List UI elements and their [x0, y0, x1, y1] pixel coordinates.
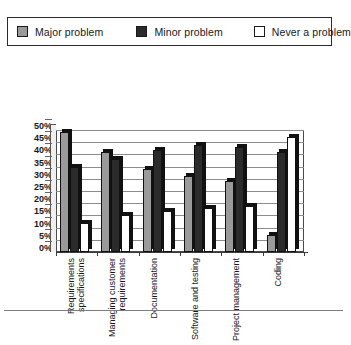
bar-front-face [143, 169, 152, 252]
bar [60, 132, 69, 252]
bar-side-face [296, 134, 299, 249]
y-axis-rung [45, 241, 52, 242]
bar-group [56, 130, 97, 252]
legend-swatch-major-problem [17, 26, 28, 37]
bar [101, 152, 110, 252]
x-axis-category-label: Project management [231, 258, 241, 345]
bar-front-face [70, 167, 79, 252]
bar-front-face [194, 145, 203, 252]
bar-group [180, 130, 221, 252]
bar-group [139, 130, 180, 252]
x-axis-tick [304, 252, 305, 256]
legend-label-never-a-problem: Never a problem [272, 26, 351, 38]
y-axis-rung [45, 119, 52, 120]
bar-front-face [60, 132, 69, 252]
chart-legend: Major problem Minor problem Never a prob… [7, 17, 332, 46]
legend-item-minor-problem: Minor problem [136, 18, 222, 45]
bar-side-face [89, 220, 92, 249]
bar-front-face [184, 176, 193, 252]
bar-front-face [245, 206, 254, 252]
x-axis-tick [263, 252, 264, 256]
bar [121, 215, 130, 252]
bar-group [97, 130, 138, 252]
bar [153, 150, 162, 252]
bar [194, 145, 203, 252]
x-axis-tick [180, 252, 181, 256]
legend-label-minor-problem: Minor problem [154, 26, 222, 38]
x-axis-line [56, 252, 308, 253]
bars-layer [56, 130, 304, 252]
y-axis-rung [45, 192, 52, 193]
category-label-line: Requirements [66, 258, 76, 314]
category-label-line: Project management [231, 258, 241, 341]
bar-front-face [204, 208, 213, 252]
bar-front-face [80, 223, 89, 252]
x-axis-category-label: Managing customerrequirements [107, 258, 127, 345]
bar [225, 181, 234, 252]
bar [80, 223, 89, 252]
bar [70, 167, 79, 252]
y-axis-rung [45, 143, 52, 144]
y-axis-rung [45, 217, 52, 218]
category-label-line: requirements [117, 258, 127, 345]
bar-front-face [153, 150, 162, 252]
legend-label-major-problem: Major problem [35, 26, 103, 38]
bar-front-face [163, 211, 172, 252]
x-axis-category-label: Requirementsspecifications [66, 258, 86, 345]
bar [287, 137, 296, 252]
x-axis-tick [221, 252, 222, 256]
bar-front-face [101, 152, 110, 252]
y-axis-rung [45, 180, 52, 181]
bar-side-face [213, 205, 216, 249]
bar-group [221, 130, 262, 252]
bar-front-face [225, 181, 234, 252]
legend-swatch-minor-problem [136, 26, 147, 37]
y-axis-rung [45, 131, 52, 132]
x-axis-category-labels: RequirementsspecificationsManaging custo… [56, 258, 310, 345]
bar [245, 206, 254, 252]
legend-swatch-never-a-problem [254, 26, 265, 37]
x-axis-category-label: Documentation [149, 258, 159, 345]
category-label-line: Managing customer [107, 258, 117, 337]
bar-side-face [254, 203, 257, 249]
bar [163, 211, 172, 252]
bar-front-face [277, 152, 286, 252]
bar-front-face [235, 147, 244, 252]
bar-side-face [172, 208, 175, 249]
legend-item-never-a-problem: Never a problem [254, 18, 351, 45]
bar-front-face [287, 137, 296, 252]
category-label-line: Coding [273, 258, 283, 287]
x-axis-category-label: Coding [273, 258, 283, 345]
bar [143, 169, 152, 252]
page-divider [4, 310, 343, 311]
bar [111, 159, 120, 252]
bar-front-face [121, 215, 130, 252]
bar-chart: 50%45%40%35%30%25%20%15%10%5%0% Requirem… [0, 56, 347, 306]
plot-area [56, 130, 304, 252]
category-label-line: Software and testing [190, 258, 200, 340]
bar [184, 176, 193, 252]
bar [204, 208, 213, 252]
category-label-line: specifications [76, 258, 86, 345]
y-axis-rung [45, 156, 52, 157]
x-axis-tick [56, 252, 57, 256]
bar-front-face [267, 235, 276, 252]
bar [267, 235, 276, 252]
bar-side-face [130, 212, 133, 249]
bar-group [263, 130, 304, 252]
x-axis-tick [97, 252, 98, 256]
bar [277, 152, 286, 252]
x-axis-category-label: Software and testing [190, 258, 200, 345]
legend-item-major-problem: Major problem [17, 18, 103, 45]
x-axis-tick [139, 252, 140, 256]
y-axis-tick-labels: 50%45%40%35%30%25%20%15%10%5%0% [24, 126, 52, 250]
bar-front-face [111, 159, 120, 252]
y-axis-rung [45, 204, 52, 205]
y-axis-rung [45, 168, 52, 169]
bar [235, 147, 244, 252]
y-axis-rung [45, 229, 52, 230]
